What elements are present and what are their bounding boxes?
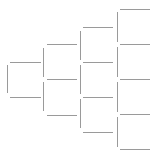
bracket-vertical-line — [117, 12, 118, 42]
bracket-horizontal-line — [120, 79, 150, 80]
bracket-horizontal-line — [120, 44, 150, 45]
bracket-vertical-line — [7, 65, 8, 93]
bracket-horizontal-line — [83, 97, 113, 98]
bracket-horizontal-line — [47, 44, 77, 45]
bracket-vertical-line — [117, 47, 118, 77]
bracket-horizontal-line — [83, 62, 113, 63]
bracket-diagram — [0, 0, 153, 162]
bracket-vertical-line — [117, 117, 118, 147]
bracket-vertical-line — [43, 48, 44, 77]
bracket-horizontal-line — [47, 79, 77, 80]
bracket-horizontal-line — [120, 149, 150, 150]
bracket-horizontal-line — [10, 97, 41, 98]
bracket-horizontal-line — [47, 115, 77, 116]
bracket-horizontal-line — [83, 132, 113, 133]
bracket-horizontal-line — [120, 114, 150, 115]
bracket-vertical-line — [80, 65, 81, 94]
bracket-horizontal-line — [83, 27, 113, 28]
bracket-vertical-line — [80, 99, 81, 128]
bracket-horizontal-line — [120, 9, 150, 10]
bracket-horizontal-line — [10, 62, 41, 63]
bracket-vertical-line — [43, 82, 44, 111]
bracket-vertical-line — [80, 31, 81, 60]
bracket-vertical-line — [117, 82, 118, 112]
